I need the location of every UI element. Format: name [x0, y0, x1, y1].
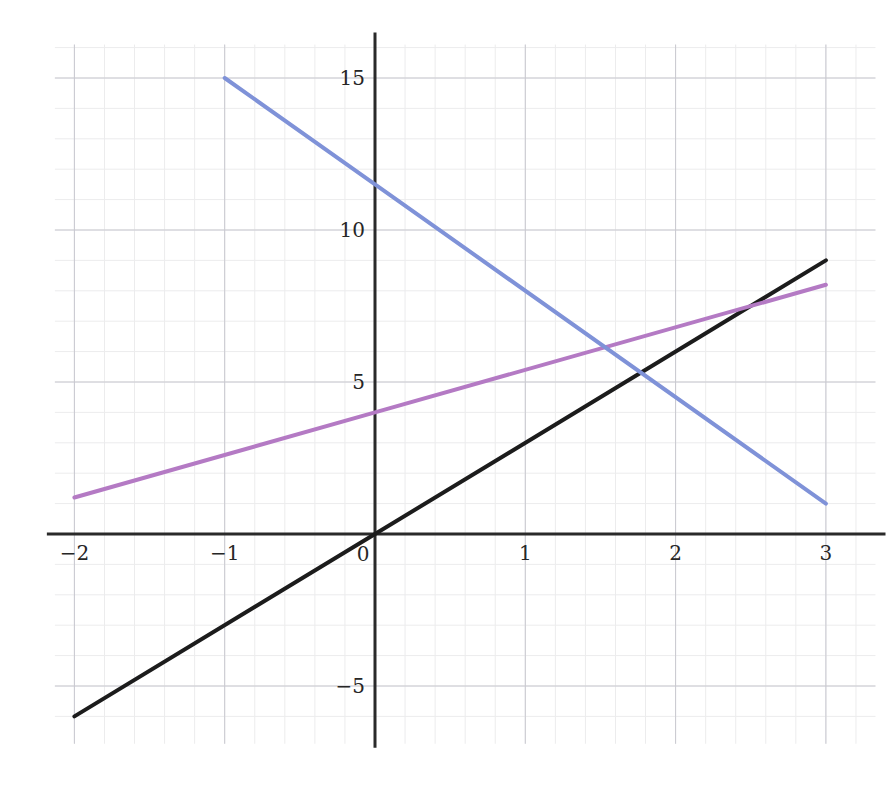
- x-tick-label: 0: [357, 542, 370, 566]
- y-tick-label: 10: [340, 218, 365, 242]
- chart-canvas: −2−10123−551015: [0, 0, 891, 790]
- y-tick-label: −5: [336, 674, 365, 698]
- x-tick-label: 3: [820, 541, 833, 565]
- axes: [47, 33, 886, 748]
- minor-gridlines: [55, 45, 876, 744]
- x-tick-label: −2: [60, 541, 89, 565]
- series-black-line: [74, 260, 826, 716]
- y-tick-label: 5: [352, 370, 365, 394]
- series-lines: [74, 78, 826, 716]
- x-tick-label: 2: [669, 541, 682, 565]
- series-purple-line: [74, 285, 826, 498]
- x-tick-label: 1: [519, 541, 532, 565]
- y-tick-label: 15: [340, 66, 365, 90]
- line-chart: −2−10123−551015: [0, 0, 891, 790]
- x-tick-label: −1: [210, 541, 239, 565]
